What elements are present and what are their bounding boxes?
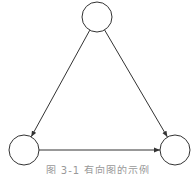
- node-bottom-left: [9, 135, 39, 165]
- nodes: [9, 2, 190, 165]
- directed-graph-diagram: [0, 0, 196, 174]
- node-bottom-right: [160, 135, 190, 165]
- edge-top-to-bottom-right: [105, 30, 168, 137]
- edge-top-to-bottom-left: [31, 30, 90, 137]
- edges: [31, 30, 167, 150]
- node-top: [82, 2, 112, 32]
- figure-caption: 图 3-1 有向图的示例: [0, 165, 196, 174]
